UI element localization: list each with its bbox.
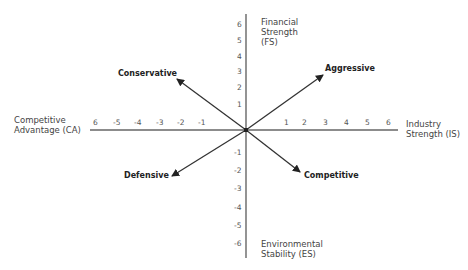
y-tick: 5 xyxy=(237,37,242,45)
y-tick: 3 xyxy=(237,68,242,76)
y-tick: 4 xyxy=(237,53,242,61)
x-tick: 2 xyxy=(302,119,307,127)
aggressive-label: Aggressive xyxy=(325,64,375,73)
x-tick: 4 xyxy=(344,119,349,127)
y-tick: -2 xyxy=(234,167,241,175)
x-tick: 6 xyxy=(386,119,391,127)
origin-marker xyxy=(244,128,248,132)
defensive-label: Defensive xyxy=(124,171,169,180)
x-tick: -2 xyxy=(177,119,184,127)
y-tick: 2 xyxy=(237,84,242,92)
y-tick: 6 xyxy=(237,21,242,29)
y-tick: -1 xyxy=(234,149,241,157)
x-tick: -4 xyxy=(134,119,141,127)
competitive-advantage-label: Competitive Advantage (CA) xyxy=(14,115,81,135)
x-tick: -1 xyxy=(198,119,205,127)
y-tick: -6 xyxy=(234,240,241,248)
environmental-stability-label: Environmental Stability (ES) xyxy=(261,239,323,259)
y-tick: 1 xyxy=(237,101,242,109)
competitive-label: Competitive xyxy=(304,171,359,180)
y-tick: -3 xyxy=(234,185,241,193)
conservative-label: Conservative xyxy=(118,69,177,78)
y-tick: -5 xyxy=(234,222,241,230)
x-tick: -3 xyxy=(156,119,163,127)
competitive-arrow xyxy=(246,130,300,172)
x-tick: 6 xyxy=(93,119,98,127)
x-tick: -5 xyxy=(113,119,120,127)
x-tick: 3 xyxy=(323,119,328,127)
conservative-arrow xyxy=(177,79,246,130)
financial-strength-label: Financial Strength (FS) xyxy=(261,17,298,47)
industry-strength-label: Industry Strength (IS) xyxy=(406,119,460,139)
y-tick: -4 xyxy=(234,204,241,212)
x-tick: 5 xyxy=(365,119,370,127)
x-tick: 1 xyxy=(284,119,289,127)
